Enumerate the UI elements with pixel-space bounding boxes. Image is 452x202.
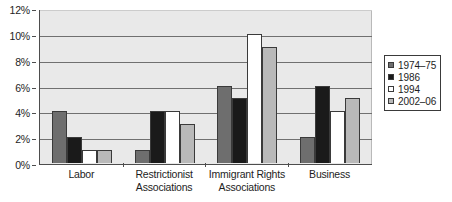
y-axis-tick (32, 62, 36, 63)
bar-group (41, 10, 124, 163)
x-axis-category-label-line: Restrictionist (123, 168, 206, 181)
x-axis-category-label-line: Business (288, 168, 371, 181)
legend-swatch-icon (388, 62, 394, 68)
y-axis-tick-label: 10% (10, 30, 30, 42)
bar (345, 98, 360, 163)
bar (300, 137, 315, 163)
bar (262, 47, 277, 163)
y-axis-tick (32, 139, 36, 140)
y-axis-tick (32, 36, 36, 37)
legend-label: 1986 (398, 72, 420, 83)
bar (67, 137, 82, 163)
legend-label: 2002–06 (398, 96, 436, 107)
legend: 1974–75198619942002–06 (384, 55, 441, 111)
bar (82, 150, 97, 163)
bar-group (124, 10, 207, 163)
x-axis-category-label-line: Labor (40, 168, 123, 181)
y-axis-tick (32, 10, 36, 11)
bar (97, 150, 112, 163)
x-axis-tick (288, 163, 289, 167)
bar-group (206, 10, 289, 163)
bar-chart: 0%2%4%6%8%10%12% LaborRestrictionistAsso… (0, 0, 452, 202)
y-axis-tick (32, 165, 36, 166)
bar (150, 111, 165, 163)
legend-swatch-icon (388, 74, 394, 80)
x-axis-category-label-line: Immigrant Rights (206, 168, 289, 181)
bar (247, 34, 262, 163)
legend-item[interactable]: 1974–75 (388, 59, 436, 71)
x-axis-category-label: RestrictionistAssociations (123, 168, 206, 193)
plot-area-wrapper (39, 10, 372, 165)
bar (217, 86, 232, 164)
y-axis-tick-label: 2% (15, 133, 30, 145)
y-axis-tick-label: 4% (15, 107, 30, 119)
legend-swatch-icon (388, 98, 394, 104)
y-axis-tick-label: 6% (15, 82, 30, 94)
bar-group (289, 10, 372, 163)
bar (52, 111, 67, 163)
legend-item[interactable]: 2002–06 (388, 95, 436, 107)
y-axis-tick (32, 113, 36, 114)
bar (330, 111, 345, 163)
legend-swatch-icon (388, 86, 394, 92)
bar (315, 86, 330, 164)
bar-groups (41, 10, 371, 163)
y-axis-tick-label: 8% (15, 56, 30, 68)
plot-area (39, 10, 372, 165)
legend-item[interactable]: 1994 (388, 83, 436, 95)
legend-label: 1994 (398, 84, 420, 95)
x-axis-category-label: Immigrant RightsAssociations (206, 168, 289, 193)
y-axis-tick (32, 88, 36, 89)
bar (232, 98, 247, 163)
bar (180, 124, 195, 163)
x-axis-tick (123, 163, 124, 167)
bar (165, 111, 180, 163)
legend-item[interactable]: 1986 (388, 71, 436, 83)
x-axis-category-label-line: Associations (123, 181, 206, 194)
y-axis: 0%2%4%6%8%10%12% (0, 10, 36, 165)
y-axis-tick-label: 12% (10, 4, 30, 16)
bar (135, 150, 150, 163)
legend-label: 1974–75 (398, 60, 436, 71)
y-axis-tick-label: 0% (15, 159, 30, 171)
x-axis-category-label-line: Associations (206, 181, 289, 194)
x-axis-category-label: Business (288, 168, 371, 193)
x-axis-category-label: Labor (40, 168, 123, 193)
x-axis-category-labels: LaborRestrictionistAssociationsImmigrant… (40, 168, 371, 193)
x-axis-tick (205, 163, 206, 167)
